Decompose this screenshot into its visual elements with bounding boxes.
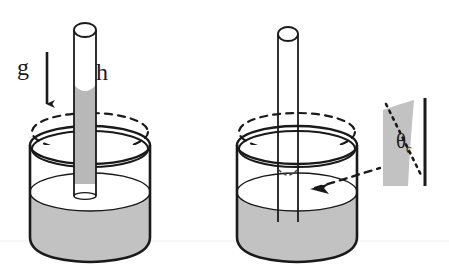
right-tube-top-opening — [278, 27, 298, 41]
left-tube-liquid-column — [74, 85, 96, 195]
left-tube-top-opening — [74, 23, 96, 37]
height-label: h — [96, 60, 108, 84]
left-panel-capillary-rise — [30, 23, 150, 262]
right-panel-capillary-depression — [237, 27, 357, 262]
theta-glyph: θ — [396, 129, 406, 153]
theta-subscript: c — [406, 141, 412, 156]
capillary-diagram-svg — [0, 0, 449, 273]
figure-canvas: g h θc — [0, 0, 449, 273]
contact-angle-label: θc — [396, 131, 412, 155]
gravity-label: g — [17, 55, 29, 79]
right-tube-depressed-void — [278, 170, 298, 206]
